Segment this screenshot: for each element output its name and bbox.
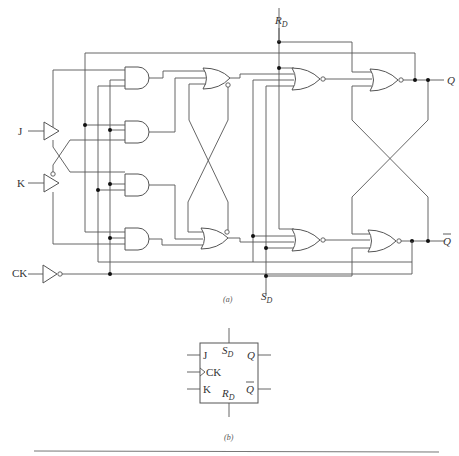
caption-b: (b): [224, 433, 234, 442]
output-nor-top: [370, 69, 403, 91]
master-nor-bottom: [201, 228, 229, 249]
input-label-k: K: [17, 177, 25, 189]
symbol-label-j: J: [203, 349, 208, 361]
preset-label-rd: RD: [274, 14, 288, 29]
symbol-label-ck: CK: [206, 366, 221, 378]
and-gate-3: [125, 174, 149, 196]
symbol-part-b: J CK K SD RD Q Q (b): [187, 328, 271, 442]
jk-flip-flop-diagram: J K CK: [0, 0, 459, 456]
input-label-ck: CK: [12, 267, 27, 279]
k-buffer-icon: [44, 174, 59, 192]
slave-nor-bottom: [292, 229, 325, 251]
symbol-label-k: K: [203, 383, 211, 395]
input-label-j: J: [18, 125, 23, 137]
clear-label-sd: SD: [261, 290, 273, 305]
slave-nor-top: [292, 68, 325, 90]
j-buffer-icon: [44, 122, 59, 140]
output-label-q-bar: Q: [443, 235, 451, 247]
page-rule: [34, 451, 439, 452]
symbol-label-q: Q: [247, 349, 255, 361]
circuit-part-a: J K CK: [12, 8, 455, 305]
and-gate-2: [125, 121, 149, 143]
symbol-label-q-bar: Q: [246, 383, 254, 395]
master-nor-top: [203, 68, 230, 89]
caption-a: (a): [223, 295, 233, 304]
ck-inverter-icon: [43, 265, 57, 283]
and-gate-1: [125, 67, 149, 89]
output-label-q: Q: [447, 74, 455, 86]
output-nor-bottom: [368, 230, 401, 252]
and-gate-4: [125, 228, 149, 250]
